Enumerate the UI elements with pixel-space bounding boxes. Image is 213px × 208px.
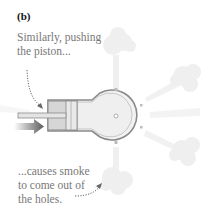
piston-sphere-diagram	[0, 0, 213, 208]
push-arrow-icon	[14, 119, 44, 134]
center-pivot	[114, 114, 118, 118]
piston-rod	[18, 113, 66, 118]
dotted-arrow-bottom-icon	[75, 186, 100, 196]
dotted-arrow-top-icon	[27, 70, 42, 107]
